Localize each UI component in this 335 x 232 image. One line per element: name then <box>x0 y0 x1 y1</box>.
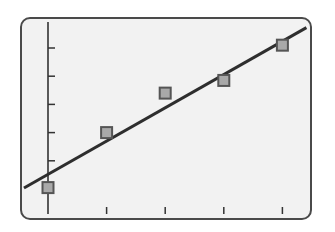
data-point-marker <box>101 127 112 138</box>
data-point-marker <box>160 88 171 99</box>
data-point-marker <box>277 40 288 51</box>
data-point-marker <box>218 75 229 86</box>
data-point-marker <box>43 182 54 193</box>
scatter-chart <box>0 0 335 232</box>
